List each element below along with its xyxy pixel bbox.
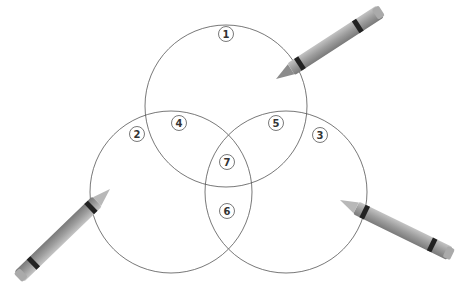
svg-text:3: 3	[317, 130, 324, 141]
svg-text:1: 1	[223, 29, 230, 40]
region-label-2: 2	[130, 127, 145, 142]
region-label-3: 3	[313, 128, 328, 143]
svg-text:5: 5	[273, 118, 280, 129]
crayon-bottom-right	[337, 194, 455, 261]
region-label-4: 4	[172, 116, 187, 131]
region-label-1: 1	[219, 27, 234, 42]
svg-text:4: 4	[176, 118, 183, 129]
crayon-bottom-left	[13, 184, 115, 283]
svg-text:7: 7	[224, 157, 231, 168]
svg-text:2: 2	[134, 129, 141, 140]
region-label-7: 7	[220, 155, 235, 170]
venn-diagram: 1234567	[0, 0, 463, 283]
region-label-6: 6	[220, 204, 235, 219]
svg-text:6: 6	[224, 206, 231, 217]
region-label-5: 5	[269, 116, 284, 131]
crayon-top-right	[272, 5, 385, 85]
